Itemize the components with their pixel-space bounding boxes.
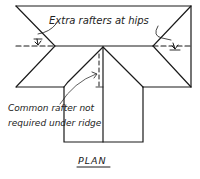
left-section-arrow-icon xyxy=(35,39,41,45)
plan-title: PLAN xyxy=(78,155,107,166)
hips-note-label: Extra rafters at hips xyxy=(49,15,149,26)
hips-leader-right xyxy=(156,26,171,40)
right-valley-line xyxy=(103,47,143,87)
common-rafter-leader xyxy=(60,74,96,104)
common-note-line1: Common rafter not xyxy=(8,103,95,113)
left-valley-line xyxy=(64,47,103,87)
common-note-line2: required under ridge xyxy=(8,118,102,128)
roof-plan-drawing: Extra rafters at hips Common rafter not … xyxy=(0,0,200,179)
